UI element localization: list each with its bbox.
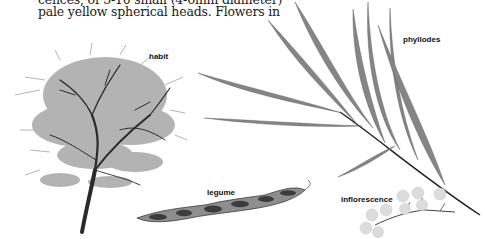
phyllodes-illustration	[198, 2, 480, 215]
phyllodes-label: phyllodes	[403, 35, 440, 44]
legume-label: legume	[207, 188, 235, 197]
habit-label: habit	[149, 52, 168, 61]
legume-illustration	[137, 180, 310, 222]
inflorescence-label: inflorescence	[341, 195, 393, 204]
tree-habit-illustration	[15, 43, 187, 232]
